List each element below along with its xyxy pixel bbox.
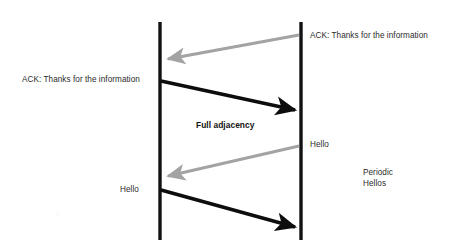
full-adjacency-label: Full adjacency (196, 120, 254, 131)
message-label-ack-right: ACK: Thanks for the information (310, 31, 428, 42)
scan-artifact (56, 211, 60, 216)
message-label-hello-left: Hello (120, 185, 139, 196)
diagram-canvas: ACK: Thanks for the information ACK: Tha… (0, 0, 454, 251)
message-label-ack-left: ACK: Thanks for the information (22, 75, 140, 86)
periodic-hellos-label: Periodic Hellos (363, 168, 393, 189)
message-arrow-ack-left-to-right (161, 81, 295, 110)
message-arrow-hello-left-to-right (161, 190, 295, 227)
message-label-hello-right: Hello (310, 140, 329, 151)
message-arrow-hello-right-to-left (168, 146, 299, 176)
message-arrow-ack-right-to-left (168, 35, 299, 59)
